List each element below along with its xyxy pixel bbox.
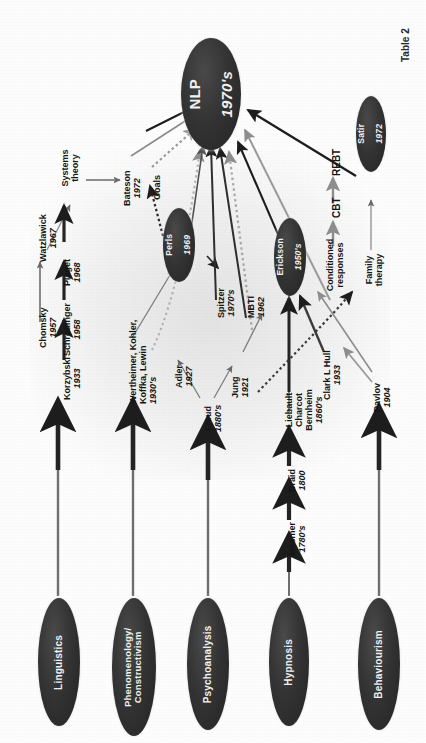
hull-name: Clark L Hull — [322, 350, 332, 400]
node-phenomenology[interactable]: Phenomenology/ Constructivism — [112, 598, 156, 736]
figure-canvas: NLP 1970's Perls 1969 Erickson 1950's Sa… — [0, 0, 426, 743]
hub-year: 1970's — [219, 71, 235, 117]
freud-year: 1880's — [213, 405, 223, 432]
label-gestalt-school: Wertheimer, Kohler, Koffka, Lewin 1930's — [128, 304, 158, 404]
label-adler: Adler 1927 — [174, 365, 194, 388]
label-korzybski: Korzybski 1933 — [62, 357, 82, 400]
adler-year: 1927 — [184, 365, 194, 388]
node-nlp-hub[interactable]: NLP 1970's — [181, 38, 241, 150]
node-behaviourism[interactable]: Behaviourism — [358, 598, 400, 730]
bateson-year: 1972 — [132, 170, 142, 206]
hull-year: 1933 — [332, 350, 342, 400]
pavlov-name: Pavlov — [372, 383, 382, 412]
label-chomsky: Chomsky 1957 — [38, 307, 58, 348]
cbt-name: CBT — [331, 197, 342, 218]
mbti-name: MBTI — [246, 296, 256, 318]
node-erickson[interactable]: Erickson 1950's — [274, 218, 306, 296]
label-freud: Freud 1880's — [203, 405, 223, 432]
mbti-year: 1962 — [256, 296, 266, 318]
freud-name: Freud — [203, 406, 213, 431]
label-spitzer: Spitzer 1970's — [216, 288, 236, 318]
label-cbt: CBT — [331, 197, 342, 218]
chomsky-name: Chomsky — [38, 307, 48, 348]
watzlawick-year: 1967 — [48, 214, 58, 262]
perls-year: 1969 — [184, 234, 193, 256]
node-satir[interactable]: Satir 1972 — [356, 96, 386, 172]
lcb-name: Liebault Charcot Bernheim — [284, 389, 314, 431]
bateson-name: Bateson — [122, 170, 132, 206]
braid-name: Braid — [287, 469, 297, 492]
family-name: Family therapy — [364, 254, 384, 287]
caption-text: Table 2 — [400, 28, 411, 62]
piaget-year: 1968 — [72, 259, 82, 286]
edge-hull-erickson — [300, 296, 324, 352]
rebt-name: REBT — [331, 149, 342, 176]
korzybski-year: 1933 — [72, 357, 82, 400]
figure-caption: Table 2 — [400, 28, 411, 62]
hub-title: NLP — [187, 71, 203, 117]
node-psychoanalysis[interactable]: Psychoanalysis — [187, 598, 229, 730]
chomsky-year: 1957 — [48, 307, 58, 348]
label-goals: Goals — [152, 175, 162, 200]
mesmer-name: Mesmer — [287, 522, 297, 556]
erickson-name: Erickson — [276, 238, 285, 276]
behaviourism-label: Behaviourism — [374, 630, 385, 699]
label-clark-hull: Clark L Hull 1933 — [322, 350, 342, 400]
label-systems-theory: Systems theory — [60, 140, 80, 196]
watzlawick-name: Watzlawick — [38, 214, 48, 262]
psychoanalysis-label: Psychoanalysis — [203, 625, 214, 703]
label-watzlawick: Watzlawick 1967 — [38, 214, 58, 262]
spitzer-name: Spitzer — [216, 288, 226, 318]
label-piaget: Piaget 1968 — [62, 259, 82, 286]
label-braid: Braid 1800 — [287, 469, 307, 492]
edge-perls-spitzer — [207, 256, 218, 268]
systems-name: Systems theory — [60, 149, 80, 186]
label-rebt: REBT — [331, 149, 342, 176]
satir-year: 1972 — [376, 124, 385, 144]
label-mesmer: Mesmer 1780's — [287, 522, 307, 556]
label-schrodinger: Schrodinger 1958 — [62, 303, 82, 356]
label-mbti: MBTI 1962 — [246, 296, 266, 318]
pavlov-year: 1904 — [382, 383, 392, 412]
goals-name: Goals — [152, 175, 162, 200]
node-hypnosis[interactable]: Hypnosis — [269, 598, 309, 726]
label-liebault-charcot-bernheim: Liebault Charcot Bernheim 1860's — [284, 380, 324, 440]
label-jung: Jung 1921 — [230, 377, 250, 399]
adler-name: Adler — [174, 365, 184, 388]
schrodinger-year: 1958 — [72, 303, 82, 356]
hypnosis-label: Hypnosis — [284, 639, 295, 686]
spitzer-year: 1970's — [226, 288, 236, 318]
satir-name: Satir — [357, 124, 366, 144]
label-pavlov: Pavlov 1904 — [372, 383, 392, 412]
mesmer-year: 1780's — [297, 522, 307, 556]
schrodinger-name: Schrodinger — [62, 303, 72, 356]
conditioned-name: Conditioned responses — [325, 239, 345, 292]
node-perls[interactable]: Perls 1969 — [163, 208, 195, 282]
braid-year: 1800 — [297, 469, 307, 492]
linguistics-label: Linguistics — [54, 635, 65, 690]
jung-name: Jung — [230, 377, 240, 399]
phenomenology-label: Phenomenology/ Constructivism — [124, 627, 145, 706]
piaget-name: Piaget — [62, 259, 72, 286]
gestalt-year: 1930's — [148, 304, 158, 404]
label-conditioned-responses: Conditioned responses — [325, 234, 345, 296]
edge-spitzer-nlp — [211, 146, 216, 300]
edge-jung-mbti — [243, 314, 262, 352]
jung-year: 1921 — [240, 377, 250, 399]
perls-name: Perls — [165, 234, 174, 256]
label-bateson: Bateson 1972 — [122, 170, 142, 206]
gestalt-name: Wertheimer, Kohler, Koffka, Lewin — [128, 320, 148, 404]
korzybski-name: Korzybski — [62, 357, 72, 400]
erickson-year: 1950's — [295, 238, 304, 276]
node-linguistics[interactable]: Linguistics — [38, 598, 80, 726]
label-family-therapy: Family therapy — [364, 244, 384, 296]
